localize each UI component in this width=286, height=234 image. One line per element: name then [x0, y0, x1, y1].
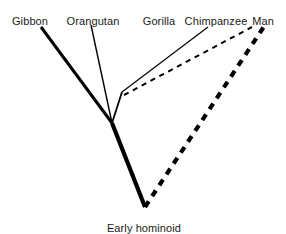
branch-gibbon-split-to-gorilla-split: [112, 92, 122, 123]
branch-gorilla: [122, 27, 208, 92]
branch-group: [41, 25, 265, 207]
branch-root-to-gibbon-split: [112, 123, 145, 207]
tip-label-gibbon: Gibbon: [12, 16, 48, 27]
phylogenetic-tree-diagram: Gibbon Orangutan Gorilla Chimpanzee Man …: [0, 0, 286, 234]
root-label-early-hominoid: Early hominoid: [107, 223, 181, 234]
tip-label-orangutan: Orangutan: [67, 16, 120, 27]
tip-label-man: Man: [252, 16, 274, 27]
tip-label-chimpanzee: Chimpanzee: [185, 16, 248, 27]
branch-chimpanzee: [124, 27, 252, 95]
tree-branches-svg: [0, 0, 286, 234]
tip-label-gorilla: Gorilla: [143, 16, 176, 27]
